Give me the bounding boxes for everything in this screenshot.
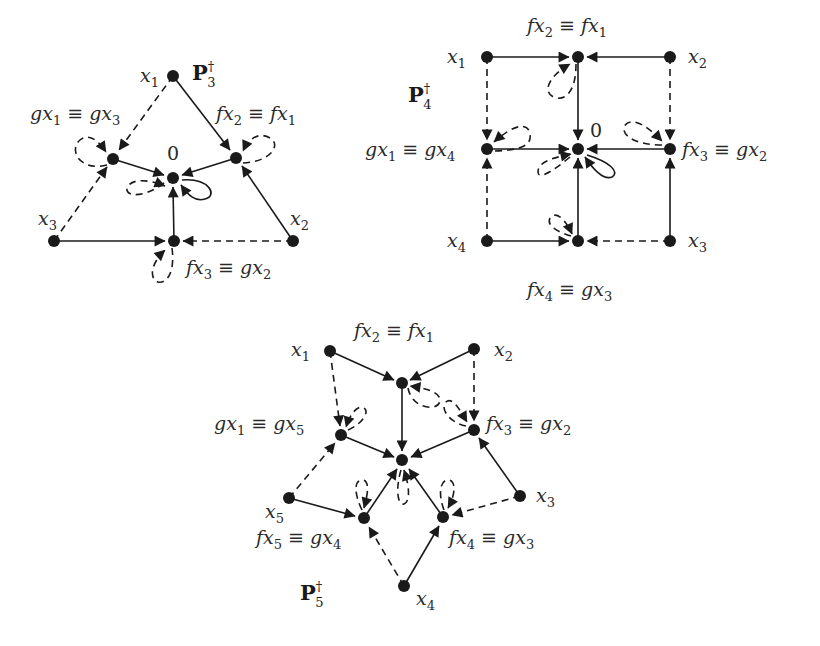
edge-x5-gx1 — [289, 443, 335, 498]
label-gx1-gx4: gx1 ≡ gx4 — [365, 138, 455, 164]
label-x1: x1 — [140, 64, 159, 90]
node-x2 — [468, 343, 480, 355]
node-x1 — [481, 51, 493, 63]
loop-fx4 — [549, 215, 572, 236]
node-fx3-gx2 — [664, 143, 676, 155]
node-x3 — [514, 490, 526, 502]
loop-fx2 — [243, 136, 275, 163]
node-fx5-gx4 — [358, 512, 370, 524]
loop-gx1 — [75, 137, 107, 166]
label-x4: x4 — [416, 587, 435, 613]
loop-fx3 — [444, 401, 467, 426]
node-x3 — [664, 235, 676, 247]
loop-fx4 — [441, 480, 454, 510]
edge-x2-fx2 — [410, 349, 474, 380]
edge-x4-fx4 — [404, 526, 439, 586]
node-gx1-gx3 — [107, 153, 119, 165]
label-gx1-gx3: gx1 ≡ gx3 — [30, 102, 120, 128]
edge-x1-fx2 — [330, 351, 394, 380]
node-fx2-fx1 — [396, 377, 408, 389]
edge-x1-gx1 — [119, 76, 173, 150]
graph-p3: P†3 x1 gx1 ≡ gx3 fx2 ≡ fx1 0 x3 x2 fx3 ≡… — [30, 59, 309, 282]
node-fx2-fx1 — [572, 51, 584, 63]
label-zero: 0 — [590, 119, 602, 141]
loop-zero-dashed — [127, 181, 165, 195]
label-fx5-gx4: fx5 ≡ gx4 — [254, 526, 341, 552]
label-x5: x5 — [265, 500, 284, 526]
edge-x4-fx5 — [369, 527, 404, 586]
node-fx2-fx1 — [230, 152, 242, 164]
node-fx4-gx3 — [437, 511, 449, 523]
node-zero — [167, 172, 179, 184]
node-x2 — [664, 51, 676, 63]
node-x1 — [167, 70, 179, 82]
edge-x3-fx3 — [479, 438, 520, 496]
edge-gx1-zero — [113, 159, 164, 175]
label-x3: x3 — [536, 484, 555, 510]
graph-p5: fx2 ≡ fx1 x1 x2 gx1 ≡ gx5 fx3 ≡ gx2 x5 x… — [214, 319, 571, 613]
label-x1: x1 — [447, 45, 466, 71]
graph-p4: P†4 fx2 ≡ fx1 x1 x2 gx1 ≡ gx4 0 fx3 ≡ gx… — [365, 14, 767, 304]
label-fx3-gx2: fx3 ≡ gx2 — [484, 412, 571, 438]
label-x2: x2 — [688, 45, 707, 71]
edge-x5-fx5 — [289, 498, 355, 516]
loop-gx1 — [346, 407, 366, 430]
label-x3: x3 — [38, 207, 57, 233]
node-gx1-gx5 — [335, 429, 347, 441]
node-fx4-gx3 — [572, 235, 584, 247]
label-x4: x4 — [447, 229, 466, 255]
edge-gx1-zero — [341, 435, 394, 457]
edge-x3-fx4 — [452, 496, 520, 515]
label-fx2-fx1: fx2 ≡ fx1 — [352, 319, 434, 345]
label-fx2-fx1: fx2 ≡ fx1 — [214, 102, 296, 128]
node-x2 — [287, 235, 299, 247]
edge-fx4-zero — [409, 469, 443, 517]
node-x5 — [283, 492, 295, 504]
edge-x1-gx1 — [330, 351, 340, 426]
edge-fx5-zero — [364, 469, 397, 518]
node-fx3-gx2 — [468, 424, 480, 436]
loop-fx3 — [152, 248, 172, 282]
graph-title-p3: P†3 — [192, 59, 216, 90]
label-x2: x2 — [290, 207, 309, 233]
edge-fx3-zero — [173, 187, 174, 241]
loop-zero-solid — [585, 155, 615, 178]
edge-x3-gx1 — [54, 167, 107, 241]
label-x2: x2 — [494, 338, 513, 364]
edge-fx2-zero — [182, 158, 236, 175]
edge-x2-fx2 — [242, 166, 293, 241]
label-fx3-gx2: fx3 ≡ gx2 — [184, 256, 271, 282]
graph-title-p4: P†4 — [408, 81, 432, 112]
label-x3: x3 — [688, 229, 707, 255]
label-x1: x1 — [291, 338, 310, 364]
node-zero — [396, 454, 408, 466]
node-fx3-gx2 — [168, 235, 180, 247]
graph-diagram: P†3 x1 gx1 ≡ gx3 fx2 ≡ fx1 0 x3 x2 fx3 ≡… — [0, 0, 820, 646]
node-x4 — [398, 580, 410, 592]
loop-zero-solid — [181, 180, 211, 200]
label-zero: 0 — [167, 142, 179, 164]
label-fx4-gx3: fx4 ≡ gx3 — [525, 278, 612, 304]
loop-zero — [398, 470, 409, 504]
label-gx1-gx5: gx1 ≡ gx5 — [214, 412, 304, 438]
loop-gx1 — [494, 126, 530, 151]
node-x1 — [324, 345, 336, 357]
loop-fx2 — [408, 386, 440, 407]
label-fx4-gx3: fx4 ≡ gx3 — [447, 526, 534, 552]
label-fx2-fx1: fx2 ≡ fx1 — [525, 14, 607, 40]
label-fx3-gx2: fx3 ≡ gx2 — [680, 138, 767, 164]
loop-fx2 — [548, 64, 576, 98]
edge-fx3-zero — [411, 430, 474, 457]
figure-canvas: P†3 x1 gx1 ≡ gx3 fx2 ≡ fx1 0 x3 x2 fx3 ≡… — [0, 0, 820, 646]
loop-fx5 — [356, 480, 368, 510]
node-x4 — [481, 235, 493, 247]
loop-zero-dashed — [538, 154, 571, 175]
loop-fx3 — [624, 122, 662, 145]
node-x3 — [48, 235, 60, 247]
node-gx1-gx4 — [481, 143, 493, 155]
graph-title-p5: P†5 — [300, 579, 324, 610]
node-zero — [572, 143, 584, 155]
